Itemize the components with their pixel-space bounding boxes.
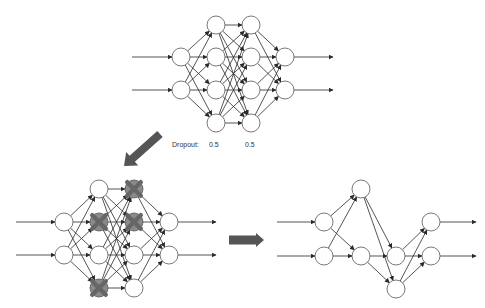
neuron — [242, 48, 260, 66]
transition-arrows — [124, 131, 264, 247]
connection — [141, 195, 163, 216]
connection — [365, 197, 392, 248]
connection — [402, 228, 424, 249]
diagonal-arrow-icon — [124, 131, 163, 166]
connection — [368, 262, 390, 283]
neuron — [387, 280, 405, 298]
right-arrow-icon — [229, 233, 264, 247]
neuron — [207, 16, 225, 34]
neuron — [172, 81, 190, 99]
neuron — [172, 48, 190, 66]
neuron — [315, 247, 333, 265]
neuron — [276, 81, 294, 99]
neuron — [242, 16, 260, 34]
neuron — [55, 246, 73, 264]
neuron — [422, 247, 440, 265]
neuron — [160, 246, 178, 264]
connection — [71, 195, 93, 216]
connection — [188, 31, 210, 51]
neuron — [207, 114, 225, 132]
dropout-label: Dropout: — [172, 141, 199, 148]
neuron — [90, 180, 108, 198]
dropout-diagram — [0, 0, 485, 308]
dropout-network — [16, 180, 216, 297]
neuron — [125, 246, 143, 264]
neuron — [422, 213, 440, 231]
neuron — [276, 48, 294, 66]
neuron — [207, 48, 225, 66]
connection — [188, 96, 210, 117]
connection — [257, 96, 278, 116]
dropout-rate-layer2: 0.5 — [245, 141, 255, 148]
thinned-network — [277, 180, 476, 298]
neuron — [207, 81, 225, 99]
neuron — [242, 81, 260, 99]
neuron — [242, 114, 260, 132]
connection — [331, 228, 355, 250]
connection — [403, 262, 425, 283]
connection — [331, 195, 355, 216]
dropout-rate-layer1: 0.5 — [209, 141, 219, 148]
neuron — [55, 213, 73, 231]
neuron — [315, 213, 333, 231]
neuron — [90, 246, 108, 264]
neuron — [125, 279, 143, 297]
full-network — [132, 16, 333, 132]
neuron — [352, 247, 370, 265]
connection — [364, 197, 393, 280]
neuron — [387, 247, 405, 265]
neuron — [160, 213, 178, 231]
connection — [71, 261, 93, 282]
connection — [141, 261, 163, 282]
neuron — [352, 180, 370, 198]
connection — [258, 31, 279, 51]
